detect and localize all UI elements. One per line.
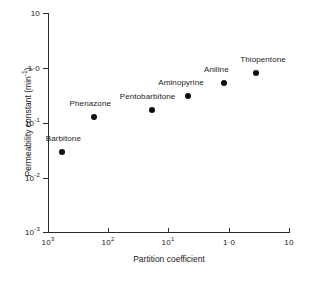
x-axis-tick-label: 101: [148, 238, 188, 247]
data-point-label-pentobarbitone: Pentobarbitone: [120, 92, 176, 101]
data-point-label-phenazone: Phenazone: [70, 99, 111, 108]
x-axis-tick-label: 102: [88, 238, 128, 247]
y-axis-tick: [43, 68, 48, 69]
x-axis-tick: [289, 228, 290, 233]
x-axis-line: [48, 232, 290, 233]
y-axis-line: [48, 13, 49, 233]
data-point-marker-aniline: [221, 80, 227, 86]
y-axis-tick-label: 10: [14, 9, 40, 18]
x-axis-tick: [168, 228, 169, 233]
x-axis-tick-label: 103: [28, 238, 68, 247]
permeability-vs-partition-scatter-chart: 10 1·0 10-1 10-2 10-3 103 102 101 1·0 10…: [0, 0, 310, 284]
data-point-marker-barbitone: [59, 149, 65, 155]
x-axis-tick: [48, 228, 49, 233]
data-point-label-aniline: Aniline: [204, 65, 229, 74]
data-point-marker-phenazone: [91, 114, 97, 120]
x-axis-tick-label: 10: [269, 238, 309, 247]
y-axis-tick-label: 10-3: [14, 228, 40, 237]
data-point-label-aminopyrine: Aminopyrine: [158, 78, 204, 87]
y-axis-tick: [43, 178, 48, 179]
data-point-label-barbitone: Barbitone: [46, 134, 81, 143]
y-axis-tick: [43, 123, 48, 124]
x-axis-tick: [108, 228, 109, 233]
x-axis-tick: [229, 228, 230, 233]
y-axis-tick: [43, 13, 48, 14]
x-axis-tick-label: 1·0: [209, 238, 249, 247]
data-point-marker-thiopentone: [253, 70, 259, 76]
y-axis-title: Permeability constant (min-1): [23, 42, 33, 202]
data-point-marker-aminopyrine: [185, 93, 191, 99]
data-point-marker-pentobarbitone: [149, 107, 155, 113]
data-point-label-thiopentone: Thiopentone: [240, 55, 286, 64]
x-axis-title: Partition coefficient: [48, 254, 290, 264]
